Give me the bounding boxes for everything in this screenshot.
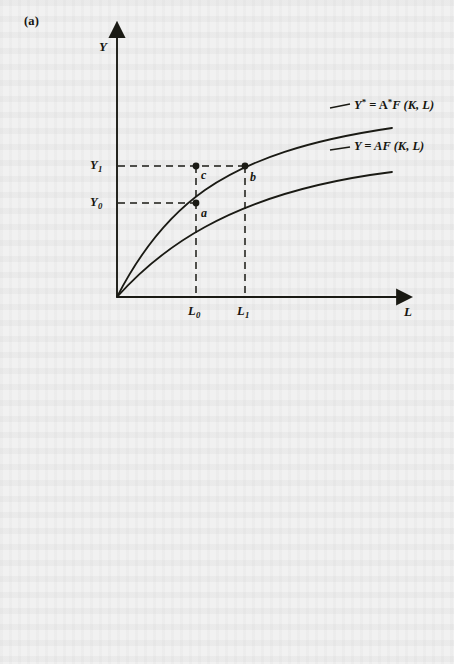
panel-a-ytick-y1-sub: 1 <box>98 164 103 174</box>
panel-a-ytick-y0-base: Y <box>90 195 98 209</box>
panel-a-ytick-y1: Y1 <box>90 159 102 173</box>
panel-a-xtick-l0-sub: 0 <box>196 310 201 320</box>
panel-a-curve-upper-tail: F (K, L) <box>392 98 434 112</box>
panel-a-xtick-l0-base: L <box>188 304 196 318</box>
panel-a-xtick-l1-sub: 1 <box>245 310 250 320</box>
panel-a-x-axis-label: L <box>404 305 412 318</box>
panel-a: (a) <box>0 0 454 332</box>
panel-a-point-a-label: a <box>201 207 207 219</box>
panel-a-y-axis-label: Y <box>99 40 107 53</box>
panel-a-curve-upper-y: Y <box>354 98 362 112</box>
panel-a-point-c-marker <box>193 163 200 170</box>
panel-a-plot <box>0 0 454 332</box>
panel-a-point-b-label: b <box>250 171 256 183</box>
panel-a-curve-upper-label: Y* = A*F (K, L) <box>354 98 434 111</box>
panel-a-xtick-l1-base: L <box>237 304 245 318</box>
panel-a-curve-upper-eq: = A <box>366 98 388 112</box>
panel-a-ytick-y1-base: Y <box>90 158 98 172</box>
panel-a-ytick-y0-sub: 0 <box>98 201 103 211</box>
panel-a-curve-lower-label: Y = AF (K, L) <box>354 140 424 153</box>
panel-a-leader-upper <box>330 104 350 108</box>
panel-a-xtick-l0: L0 <box>188 305 200 319</box>
panel-a-point-b-marker <box>242 163 249 170</box>
panel-a-leader-lower <box>330 147 350 150</box>
panel-a-xtick-l1: L1 <box>237 305 249 319</box>
panel-a-ytick-y0: Y0 <box>90 196 102 210</box>
figure-page: (a) <box>0 0 454 664</box>
panel-a-svg <box>0 0 454 332</box>
panel-a-point-a-marker <box>193 200 200 207</box>
panel-a-point-c-label: c <box>201 169 206 181</box>
panel-a-curve-upper <box>117 128 392 297</box>
